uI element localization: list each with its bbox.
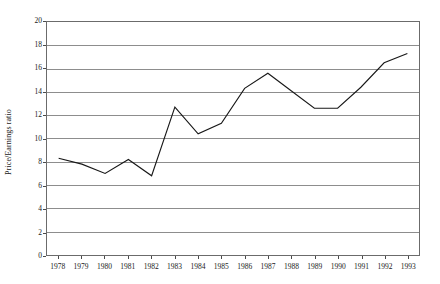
y-tickmark <box>43 256 46 257</box>
series-line-chart <box>47 22 419 255</box>
x-tick-label: 1986 <box>228 262 262 271</box>
x-tick-label: 1988 <box>274 262 308 271</box>
x-tickmark <box>408 256 409 259</box>
x-tickmark <box>128 256 129 259</box>
x-tick-label: 1990 <box>321 262 355 271</box>
x-tickmark <box>338 256 339 259</box>
x-tickmark <box>291 256 292 259</box>
x-tickmark <box>268 256 269 259</box>
x-tick-label: 1993 <box>391 262 425 271</box>
x-tickmark <box>151 256 152 259</box>
x-tick-label: 1981 <box>111 262 145 271</box>
x-tick-label: 1992 <box>368 262 402 271</box>
y-axis-title: Price/Earnings ratio <box>0 0 16 284</box>
x-tickmark <box>104 256 105 259</box>
series-price-earnings-ratio <box>59 53 408 175</box>
x-tick-label: 1985 <box>204 262 238 271</box>
x-tickmark <box>198 256 199 259</box>
x-tick-label: 1984 <box>181 262 215 271</box>
x-tick-label: 1987 <box>251 262 285 271</box>
chart-figure: Price/Earnings ratio 02468101214161820 1… <box>0 0 440 284</box>
x-tick-label: 1991 <box>345 262 379 271</box>
x-tickmark <box>245 256 246 259</box>
x-tick-label: 1989 <box>298 262 332 271</box>
plot-area <box>46 21 420 256</box>
x-tick-label: 1978 <box>41 262 75 271</box>
x-tick-label: 1980 <box>87 262 121 271</box>
x-tick-label: 1979 <box>64 262 98 271</box>
x-tickmark <box>81 256 82 259</box>
x-tickmark <box>315 256 316 259</box>
x-tickmark <box>221 256 222 259</box>
x-tick-label: 1982 <box>134 262 168 271</box>
x-tick-label: 1983 <box>158 262 192 271</box>
x-tickmark <box>362 256 363 259</box>
x-tickmark <box>58 256 59 259</box>
x-tickmark <box>385 256 386 259</box>
x-tickmark <box>175 256 176 259</box>
